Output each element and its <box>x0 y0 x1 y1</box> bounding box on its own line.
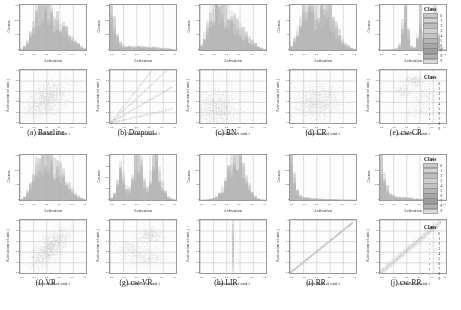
legend-label: 9 <box>441 59 443 63</box>
legend-dot-icon <box>423 97 436 101</box>
y-axis-label: Counts <box>1 2 15 51</box>
x-tick-labels: 0.00.20.40.60.81.0 <box>289 52 357 57</box>
panel-caption-i: (i) RR <box>272 278 360 287</box>
legend-title: Class <box>423 156 459 162</box>
legend-label: 1 <box>441 19 443 23</box>
legend-title: Class <box>423 6 459 12</box>
plot-area <box>19 69 87 124</box>
d-histogram: 2501505000.00.20.40.60.81.0CountsActivat… <box>272 2 360 64</box>
panel-d: 2501505000.00.20.40.60.81.0CountsActivat… <box>272 2 360 137</box>
legend-label: 4 <box>441 34 443 38</box>
panel-caption-f: (f) VR <box>2 278 90 287</box>
scatter-points <box>110 220 176 273</box>
histogram-bars <box>290 155 356 200</box>
g-histogram: 40030020010000.00.20.40.60.81.0CountsAct… <box>92 152 180 214</box>
b-scatter: 1.00.80.60.40.20.00.00.20.40.60.81.0Acti… <box>92 67 180 137</box>
legend-label: 8 <box>441 204 443 208</box>
y-axis-label: Counts <box>181 152 195 201</box>
plot-area <box>19 4 87 51</box>
legend-label: 6 <box>441 194 443 198</box>
legend-dot-icon <box>423 127 436 131</box>
legend-label: 9 <box>439 277 441 281</box>
legend-label: 3 <box>441 179 443 183</box>
panel-caption-b: (b) Dropout <box>92 128 180 137</box>
legend-item[interactable]: 9 <box>423 127 459 132</box>
panel-f: 30020010000.00.20.40.60.81.0CountsActiva… <box>2 152 90 287</box>
histogram-bars <box>200 5 266 50</box>
d-scatter: 1.00.80.60.40.20.00.00.20.40.60.81.0Acti… <box>272 67 360 137</box>
x-tick-labels: 0.00.20.40.60.81.0 <box>199 52 267 57</box>
histogram-bars <box>200 155 266 200</box>
legend-label: 2 <box>439 242 441 246</box>
histogram-bars <box>110 5 176 50</box>
legend-item[interactable]: 9 <box>423 209 459 214</box>
legend-dot-icon <box>423 112 436 116</box>
legend-dot-icon <box>423 237 436 241</box>
x-tick-labels: 0.00.20.40.60.81.0 <box>109 52 177 57</box>
legend-label: 0 <box>439 82 441 86</box>
scatter-points <box>200 220 266 273</box>
x-axis-label: Activation <box>109 58 177 63</box>
f-scatter: 1.00.80.60.40.20.00.00.20.40.60.81.0Acti… <box>2 217 90 287</box>
legend-label: 2 <box>439 92 441 96</box>
x-axis-label: Activation <box>19 208 87 213</box>
plot-area <box>19 154 87 201</box>
legend-dot-icon <box>423 92 436 96</box>
x-axis-label: Activation <box>109 208 177 213</box>
c-scatter: 1.00.80.60.40.20.00.00.20.40.60.81.0Acti… <box>182 67 270 137</box>
plot-area <box>289 4 357 51</box>
plot-area <box>109 69 177 124</box>
y-axis-label: Counts <box>181 2 195 51</box>
legend-dot-icon <box>423 117 436 121</box>
legend-dot-icon <box>423 242 436 246</box>
y-axis-label: Activation of unit j <box>271 217 285 274</box>
y-axis-label: Counts <box>271 2 285 51</box>
legend-label: 5 <box>441 39 443 43</box>
plot-area <box>289 219 357 274</box>
x-tick-labels: 0.00.20.40.60.81.0 <box>109 202 177 207</box>
panel-caption-h: (h) LIR <box>182 278 270 287</box>
legend-item[interactable]: 9 <box>423 59 459 64</box>
y-axis-label: Activation of unit j <box>361 217 375 274</box>
legend-dot-icon <box>423 102 436 106</box>
histogram-bars <box>20 5 86 50</box>
legend-scatter-class-row2: Class0123456789 <box>423 224 459 282</box>
y-axis-label: Counts <box>361 2 375 51</box>
x-tick-labels: 0.00.20.40.60.81.0 <box>19 52 87 57</box>
panel-g: 40030020010000.00.20.40.60.81.0CountsAct… <box>92 152 180 287</box>
y-axis-label: Counts <box>271 152 285 201</box>
plot-area <box>109 154 177 201</box>
plot-area <box>289 69 357 124</box>
legend-label: 7 <box>439 117 441 121</box>
legend-label: 0 <box>441 14 443 18</box>
histogram-bars <box>20 155 86 200</box>
histogram-bars <box>290 5 356 50</box>
x-axis-label: Activation <box>19 58 87 63</box>
legend-dot-icon <box>423 107 436 111</box>
legend-label: 1 <box>439 237 441 241</box>
b-histogram: 60040020000.00.20.40.60.81.0CountsActiva… <box>92 2 180 64</box>
legend-label: 4 <box>441 184 443 188</box>
legend-label: 6 <box>439 262 441 266</box>
plot-area <box>199 154 267 201</box>
plot-area <box>199 4 267 51</box>
histogram-bars <box>110 155 176 200</box>
scatter-points <box>200 70 266 123</box>
h-scatter: 1.00.80.60.40.20.00.00.20.40.60.81.0Acti… <box>182 217 270 287</box>
legend-label: 7 <box>439 267 441 271</box>
legend-label: 6 <box>439 112 441 116</box>
legend-dot-icon <box>423 277 436 281</box>
panel-caption-g: (g) cw-VR <box>92 278 180 287</box>
x-axis-label: Activation <box>199 58 267 63</box>
legend-dot-icon <box>423 122 436 126</box>
legend-item[interactable]: 9 <box>423 277 459 282</box>
panel-caption-c: (c) BN <box>182 128 270 137</box>
y-axis-label: Counts <box>1 152 15 201</box>
panel-a: 30020010000.00.20.40.60.81.0CountsActiva… <box>2 2 90 137</box>
scatter-points <box>20 220 86 273</box>
legend-label: 9 <box>441 209 443 213</box>
plot-area <box>109 219 177 274</box>
legend-label: 4 <box>439 252 441 256</box>
scatter-points <box>20 70 86 123</box>
legend-label: 7 <box>441 49 443 53</box>
